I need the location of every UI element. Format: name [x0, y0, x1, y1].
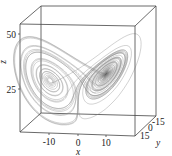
box-edge: [20, 6, 41, 24]
z-axis: 50 25 z: [0, 30, 20, 95]
box-edge: [20, 113, 41, 132]
lorenz-3d-plot: 50 25 z -10 0 10 x -15 0 15 y: [0, 0, 172, 156]
y-tick-15: 15: [140, 131, 150, 141]
x-axis-line: [20, 132, 135, 136]
attractor-trajectory: [14, 34, 142, 125]
z-tick-25: 25: [7, 85, 17, 95]
x-axis: -10 0 10 x: [43, 133, 111, 156]
box-edge: [20, 24, 135, 26]
x-tick-10: 10: [101, 138, 111, 148]
z-tick-50: 50: [7, 30, 17, 40]
x-tick-neg10: -10: [43, 137, 56, 147]
y-axis: -15 0 15 y: [140, 117, 165, 148]
y-axis-label: y: [155, 138, 161, 148]
x-axis-label: x: [75, 147, 81, 156]
y-tick-neg15: -15: [152, 117, 165, 127]
z-axis-label: z: [0, 60, 8, 65]
box-edge: [135, 6, 156, 26]
